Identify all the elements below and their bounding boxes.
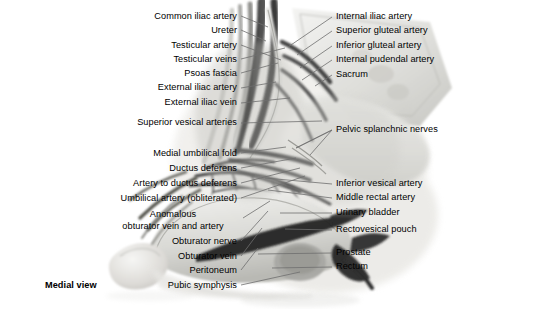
anatomy-label-urinary-bladder: Urinary bladder: [336, 207, 400, 218]
anatomy-label-medial-umbilical-fold: Medial umbilical fold: [153, 148, 237, 159]
anatomy-label-rectovesical-pouch: Rectovesical pouch: [336, 224, 417, 235]
anatomy-label-testicular-veins: Testicular veins: [173, 54, 237, 65]
anatomy-label-ductus-deferens: Ductus deferens: [169, 163, 237, 174]
anatomy-label-prostate: Prostate: [336, 247, 371, 258]
anatomy-label-pelvic-splanchnic-nerves: Pelvic splanchnic nerves: [336, 124, 438, 135]
anatomy-label-umbilical-artery-obliterated: Umbilical artery (obliterated): [121, 193, 237, 204]
anatomy-label-ureter: Ureter: [211, 25, 237, 36]
anatomy-label-obturator-vein: Obturator vein: [178, 251, 237, 262]
anatomy-label-middle-rectal-artery: Middle rectal artery: [336, 192, 415, 203]
anatomy-label-internal-pudendal-artery: Internal pudendal artery: [336, 54, 434, 65]
anatomy-label-line-1: Anomalous: [122, 209, 223, 221]
anatomy-label-rectum: Rectum: [336, 261, 368, 272]
anatomy-label-inferior-vesical-artery: Inferior vesical artery: [336, 178, 422, 189]
anatomy-label-superior-vesical-arteries: Superior vesical arteries: [137, 117, 237, 128]
pelvis-illustration: [0, 0, 540, 313]
anatomy-label-internal-iliac-artery: Internal iliac artery: [336, 11, 412, 22]
anatomy-label-anomalous-obturator-vein-and-artery: Anomalousobturator vein and artery: [122, 209, 223, 232]
anatomy-label-line-2: obturator vein and artery: [122, 221, 223, 233]
anatomical-figure: Common iliac arteryUreterTesticular arte…: [0, 0, 540, 313]
anatomy-label-external-iliac-vein: External iliac vein: [165, 97, 237, 108]
anatomy-label-obturator-nerve: Obturator nerve: [172, 236, 237, 247]
anatomy-label-inferior-gluteal-artery: Inferior gluteal artery: [336, 40, 421, 51]
view-orientation-label: Medial view: [45, 280, 97, 291]
anatomy-label-superior-gluteal-artery: Superior gluteal artery: [336, 25, 428, 36]
anatomy-label-pubic-symphysis: Pubic symphysis: [168, 280, 237, 291]
anatomy-label-artery-to-ductus-deferens: Artery to ductus deferens: [133, 178, 237, 189]
anatomy-label-psoas-fascia: Psoas fascia: [184, 68, 237, 79]
anatomy-label-peritoneum: Peritoneum: [190, 265, 237, 276]
anatomy-label-common-iliac-artery: Common iliac artery: [154, 11, 237, 22]
anatomy-label-sacrum: Sacrum: [336, 69, 368, 80]
anatomy-label-testicular-artery: Testicular artery: [171, 40, 237, 51]
anatomy-label-external-iliac-artery: External iliac artery: [158, 82, 237, 93]
